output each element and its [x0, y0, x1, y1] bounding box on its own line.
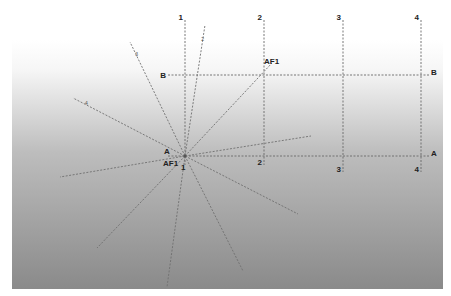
hub-point — [184, 155, 187, 158]
grid-label-bottom-4: 4 — [415, 165, 420, 174]
grid-label-right-B: B — [431, 68, 437, 77]
annotation-hub-A: A — [164, 147, 170, 156]
gradient-panel — [12, 40, 443, 289]
grid-label-top-2: 2 — [258, 13, 263, 22]
annotation-hub-1: 1 — [181, 163, 186, 172]
diagram-canvas: 1223344BBA234AF1AF11A — [0, 0, 451, 296]
radial-line-tag-1: 2 — [201, 36, 204, 42]
grid-label-top-3: 3 — [337, 13, 342, 22]
grid-label-left-B: B — [160, 71, 166, 80]
grid-label-top-1: 1 — [179, 13, 184, 22]
grid-label-bottom-3: 3 — [337, 165, 342, 174]
grid-label-bottom-2: 2 — [258, 158, 263, 167]
grid-label-right-A: A — [431, 149, 437, 158]
annotation-af1-hub: AF1 — [163, 159, 179, 168]
radial-line-tag-2: 3 — [135, 51, 138, 57]
grid-label-top-4: 4 — [415, 13, 420, 22]
annotation-af1-top: AF1 — [264, 57, 280, 66]
radial-line-tag-3: 4 — [85, 100, 88, 106]
